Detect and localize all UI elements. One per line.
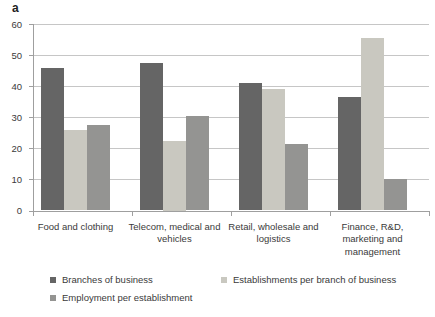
y-axis-tick-label: 50	[0, 50, 22, 61]
x-axis-tick	[429, 212, 430, 216]
bar-establishments-per-branch-of-business	[64, 130, 87, 211]
bar-employment-per-establishment	[285, 144, 308, 211]
bar-establishments-per-branch-of-business	[163, 141, 186, 211]
y-axis-tick-label: 20	[0, 143, 22, 154]
x-axis-tick	[33, 212, 34, 216]
legend-item-employment-per-establishment: Employment per establishment	[50, 292, 192, 303]
y-axis-line	[33, 24, 34, 211]
y-axis-tick-label: 0	[0, 205, 22, 216]
grouped-bar-chart-figure: a 0102030405060Food and clothingTelecom,…	[0, 0, 435, 317]
x-axis-tick	[330, 212, 331, 216]
bar-branches-of-business	[140, 63, 163, 211]
y-axis-tick-label: 40	[0, 81, 22, 92]
legend-marker-branches-of-business	[50, 277, 56, 283]
gridline	[33, 24, 429, 25]
x-axis-category-label: Telecom, medical and vehicles	[125, 221, 225, 246]
legend-label: Employment per establishment	[62, 292, 192, 303]
bar-establishments-per-branch-of-business	[361, 38, 384, 211]
x-axis-category-label: Finance, R&D, marketing and management	[323, 221, 423, 259]
bar-employment-per-establishment	[87, 125, 110, 210]
plot-area: 0102030405060Food and clothingTelecom, m…	[0, 0, 435, 317]
x-axis-category-label: Retail, wholesale and logistics	[224, 221, 324, 246]
legend-marker-establishments-per-branch-of-business	[221, 277, 227, 283]
y-axis-tick-label: 60	[0, 19, 22, 30]
bar-employment-per-establishment	[186, 116, 209, 211]
legend-label: Branches of business	[62, 274, 153, 285]
x-axis-tick	[231, 212, 232, 216]
x-axis-tick	[132, 212, 133, 216]
bar-branches-of-business	[338, 97, 361, 210]
bar-establishments-per-branch-of-business	[262, 89, 285, 210]
legend-item-establishments-per-branch-of-business: Establishments per branch of business	[221, 274, 396, 285]
legend-item-branches-of-business: Branches of business	[50, 274, 153, 285]
legend-marker-employment-per-establishment	[50, 295, 56, 301]
bar-employment-per-establishment	[384, 179, 407, 210]
legend-label: Establishments per branch of business	[233, 274, 396, 285]
y-axis-tick-label: 10	[0, 174, 22, 185]
bar-branches-of-business	[239, 83, 262, 210]
x-axis-category-label: Food and clothing	[26, 221, 126, 234]
bar-branches-of-business	[41, 68, 64, 211]
y-axis-tick-label: 30	[0, 112, 22, 123]
